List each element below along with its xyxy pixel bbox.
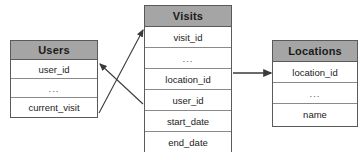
table-row[interactable]: user_id [11, 60, 97, 79]
table-header-users: Users [11, 41, 97, 60]
er-diagram: Users user_id ... current_visit Visits v… [0, 0, 364, 160]
table-row[interactable]: start_date [145, 111, 231, 132]
relationship-line-users-to-visits [99, 30, 143, 113]
table-row[interactable]: name [273, 104, 357, 125]
table-row[interactable]: end_date [145, 132, 231, 153]
table-row[interactable]: user_id [145, 90, 231, 111]
entity-table-visits[interactable]: Visits visit_id ... location_id user_id … [144, 5, 232, 152]
table-row[interactable]: location_id [145, 69, 231, 90]
entity-table-users[interactable]: Users user_id ... current_visit [10, 40, 98, 118]
table-row[interactable]: visit_id [145, 27, 231, 48]
table-row[interactable]: current_visit [11, 98, 97, 117]
table-row[interactable]: ... [145, 48, 231, 69]
table-row[interactable]: location_id [273, 62, 357, 83]
table-row[interactable]: ... [273, 83, 357, 104]
table-header-visits: Visits [145, 6, 231, 27]
entity-table-locations[interactable]: Locations location_id ... name [272, 40, 358, 127]
table-header-locations: Locations [273, 41, 357, 62]
table-row[interactable]: ... [11, 79, 97, 98]
